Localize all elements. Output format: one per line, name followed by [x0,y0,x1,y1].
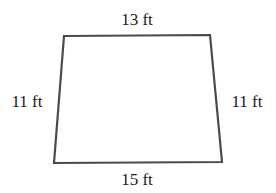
bottom-side-label: 15 ft [121,170,153,189]
top-side-label: 13 ft [121,10,153,29]
trapezoid-shape [54,35,222,163]
left-side-label: 11 ft [11,92,42,111]
right-side-label: 11 ft [231,92,262,111]
trapezoid-diagram: 13 ft 15 ft 11 ft 11 ft [0,0,276,193]
